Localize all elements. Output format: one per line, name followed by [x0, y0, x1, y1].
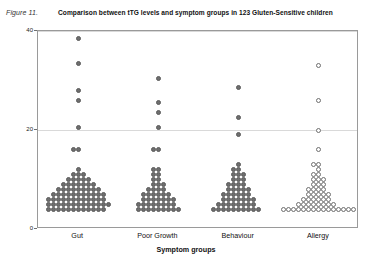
- data-point: [71, 172, 76, 177]
- data-point: [46, 207, 51, 212]
- data-point: [216, 202, 221, 207]
- data-point: [76, 182, 81, 187]
- y-tick-label-40: 40: [9, 27, 33, 33]
- data-point: [246, 187, 251, 192]
- data-point: [51, 202, 56, 207]
- data-point: [81, 177, 86, 182]
- data-point: [66, 192, 71, 197]
- gridline-20: [38, 130, 357, 131]
- data-point: [56, 187, 61, 192]
- data-point: [151, 207, 156, 212]
- data-point: [311, 177, 316, 182]
- x-axis-title: Symptom groups: [0, 245, 372, 254]
- data-point: [151, 167, 156, 172]
- data-point: [221, 207, 226, 212]
- data-point: [156, 147, 161, 152]
- data-point: [221, 202, 226, 207]
- data-point: [56, 207, 61, 212]
- data-point: [151, 202, 156, 207]
- data-point: [156, 177, 161, 182]
- data-point: [61, 192, 66, 197]
- data-point: [71, 147, 76, 152]
- data-point: [231, 207, 236, 212]
- data-point: [226, 192, 231, 197]
- data-point: [171, 197, 176, 202]
- data-point: [51, 192, 56, 197]
- data-point: [156, 167, 161, 172]
- data-point: [81, 182, 86, 187]
- data-point: [71, 202, 76, 207]
- data-point: [76, 202, 81, 207]
- data-point: [86, 177, 91, 182]
- data-point: [231, 202, 236, 207]
- data-point: [61, 182, 66, 187]
- data-point: [61, 197, 66, 202]
- data-point: [316, 167, 321, 172]
- data-point: [51, 197, 56, 202]
- data-point: [226, 197, 231, 202]
- data-point: [81, 187, 86, 192]
- data-point: [231, 172, 236, 177]
- data-point: [76, 88, 81, 93]
- data-point: [76, 172, 81, 177]
- data-point: [176, 207, 181, 212]
- data-point: [236, 162, 241, 167]
- data-point: [171, 202, 176, 207]
- data-point: [51, 207, 56, 212]
- data-point: [256, 207, 261, 212]
- data-point: [76, 197, 81, 202]
- data-point: [136, 202, 141, 207]
- data-point: [156, 125, 161, 130]
- data-point: [156, 76, 161, 81]
- data-point: [96, 202, 101, 207]
- figure-label: Figure 11.: [6, 9, 38, 16]
- data-point: [101, 207, 106, 212]
- data-point: [91, 197, 96, 202]
- y-tick-mark-20: [34, 129, 37, 130]
- y-tick-mark-0: [34, 228, 37, 229]
- data-point: [351, 207, 356, 212]
- data-point: [76, 98, 81, 103]
- data-point: [61, 202, 66, 207]
- data-point: [81, 202, 86, 207]
- data-point: [91, 187, 96, 192]
- data-point: [241, 172, 246, 177]
- data-point: [86, 202, 91, 207]
- data-point: [146, 202, 151, 207]
- data-point: [166, 192, 171, 197]
- data-point: [311, 182, 316, 187]
- data-point: [161, 182, 166, 187]
- data-point: [81, 172, 86, 177]
- data-point: [56, 197, 61, 202]
- data-point: [331, 202, 336, 207]
- data-point: [236, 115, 241, 120]
- data-point: [316, 98, 321, 103]
- data-point: [66, 187, 71, 192]
- data-point: [101, 197, 106, 202]
- data-point: [86, 207, 91, 212]
- data-point: [146, 207, 151, 212]
- data-point: [156, 100, 161, 105]
- data-point: [216, 207, 221, 212]
- data-point: [251, 202, 256, 207]
- data-point: [66, 202, 71, 207]
- data-point: [226, 182, 231, 187]
- data-point: [321, 177, 326, 182]
- figure-container: Figure 11. Comparison between tTG levels…: [0, 0, 372, 260]
- data-point: [76, 36, 81, 41]
- data-point: [96, 192, 101, 197]
- data-point: [76, 61, 81, 66]
- data-point: [76, 147, 81, 152]
- data-point: [221, 192, 226, 197]
- data-point: [311, 162, 316, 167]
- data-point: [81, 192, 86, 197]
- data-point: [251, 197, 256, 202]
- data-point: [326, 197, 331, 202]
- data-point: [46, 197, 51, 202]
- data-point: [161, 187, 166, 192]
- data-point: [316, 147, 321, 152]
- data-point: [91, 192, 96, 197]
- x-category-poor-growth: Poor Growth: [117, 231, 197, 240]
- data-point: [226, 187, 231, 192]
- data-point: [141, 197, 146, 202]
